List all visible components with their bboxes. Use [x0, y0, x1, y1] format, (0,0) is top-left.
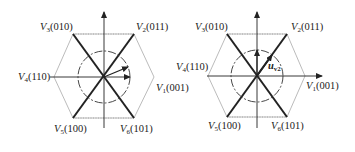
label-v2: V2(011) — [136, 22, 168, 34]
label-v6: V6(101) — [120, 124, 153, 136]
label-v5: V5(100) — [54, 124, 87, 136]
label-v5: V5(100) — [208, 121, 241, 133]
label-v6: V6(101) — [271, 121, 304, 133]
label-v3: V3(010) — [195, 22, 228, 34]
label-uv2: uv2 — [268, 61, 281, 73]
label-v1: V1(001) — [306, 81, 339, 93]
label-v4: V4(110) — [176, 62, 208, 74]
label-v2: V2(011) — [291, 22, 323, 34]
label-v1: V1(001) — [156, 83, 189, 95]
label-v4: V4(110) — [18, 72, 50, 84]
label-v3: V3(010) — [40, 22, 73, 34]
